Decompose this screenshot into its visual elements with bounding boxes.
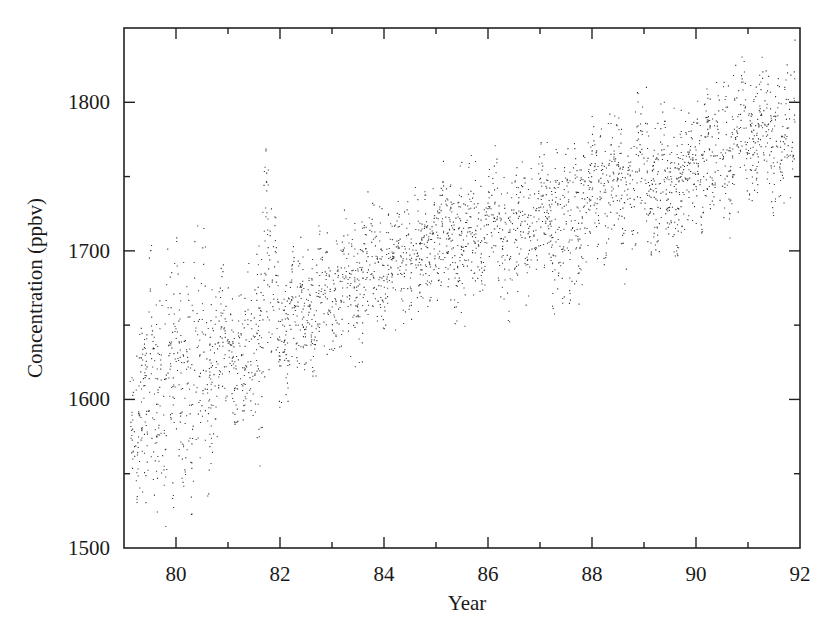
x-tick-label: 88: [582, 562, 603, 586]
y-axis-title: Concentration (ppbv): [23, 198, 47, 378]
concentration-scatter-chart: 80828486889092 1500160017001800 Year Con…: [0, 0, 827, 633]
x-axis-tick-labels: 80828486889092: [166, 562, 811, 586]
scatter-points: [130, 40, 796, 527]
y-axis-ticks: [124, 102, 800, 473]
x-tick-label: 84: [374, 562, 396, 586]
y-tick-label: 1500: [68, 536, 110, 560]
x-tick-label: 82: [270, 562, 291, 586]
x-axis-title: Year: [448, 591, 487, 615]
data-points: [130, 40, 796, 527]
plot-frame: [124, 28, 800, 548]
x-tick-label: 80: [166, 562, 187, 586]
x-tick-label: 92: [790, 562, 811, 586]
x-axis-ticks: [176, 28, 748, 548]
y-tick-label: 1700: [68, 239, 110, 263]
y-axis-tick-labels: 1500160017001800: [68, 90, 110, 560]
x-tick-label: 86: [478, 562, 499, 586]
x-tick-label: 90: [686, 562, 707, 586]
y-tick-label: 1800: [68, 90, 110, 114]
y-tick-label: 1600: [68, 387, 110, 411]
